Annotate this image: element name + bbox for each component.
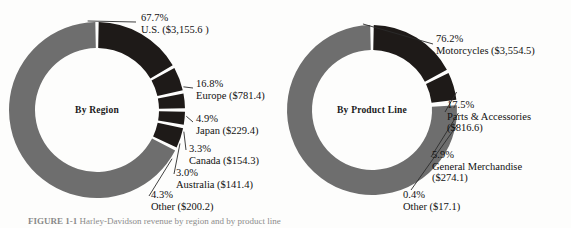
slice-label-japan: 4.9% Japan ($229.4)	[196, 113, 258, 136]
slice-pct-us: 67.7%	[141, 12, 209, 24]
donut-slice	[158, 94, 185, 109]
slice-label-other-product: 0.4% Other ($17.1)	[403, 189, 460, 212]
figure-caption-text: Harley-Davidson revenue by region and by…	[80, 216, 281, 226]
by-product-line-center-label: By Product Line	[337, 105, 407, 115]
slice-pct-other-region: 4.3%	[151, 189, 213, 201]
slice-name-japan: Japan ($229.4)	[196, 125, 258, 137]
slice-pct-parts-accessories: 17.5%	[447, 99, 531, 111]
slice-pct-europe: 16.8%	[196, 78, 265, 90]
donut-slice	[158, 111, 185, 125]
slice-name-canada: Canada ($154.3)	[189, 155, 259, 167]
slice-pct-australia: 3.0%	[176, 167, 253, 179]
slice-label-general-merchandise: 5.9% General Merchandise ($274.1)	[432, 149, 522, 184]
slice-label-motorcycles: 76.2% Motorcycles ($3,554.5)	[436, 33, 535, 56]
slice-label-australia: 3.0% Australia ($141.4)	[176, 167, 253, 190]
slice-name-europe: Europe ($781.4)	[196, 90, 265, 102]
slice-name-other-product: Other ($17.1)	[403, 201, 460, 213]
slice-name-general-merchandise: General Merchandise	[432, 161, 522, 173]
by-region-center-label: By Region	[75, 105, 119, 115]
slice-name-motorcycles: Motorcycles ($3,554.5)	[436, 45, 535, 57]
donut-chart-by-region: By Region 67.7% U.S. ($3,155.6 ) 16.8% E…	[0, 0, 290, 228]
slice-name-parts-accessories: Parts & Accessories	[447, 111, 531, 123]
slice-pct-canada: 3.3%	[189, 143, 259, 155]
slice-label-parts-accessories: 17.5% Parts & Accessories ($816.6)	[447, 99, 531, 134]
slice-pct-general-merchandise: 5.9%	[432, 149, 522, 161]
slice-label-canada: 3.3% Canada ($154.3)	[189, 143, 259, 166]
slice-name-us: U.S. ($3,155.6 )	[141, 24, 209, 36]
slice-label-europe: 16.8% Europe ($781.4)	[196, 78, 265, 101]
figure-container: By Region 67.7% U.S. ($3,155.6 ) 16.8% E…	[0, 0, 571, 228]
leader-line	[186, 116, 193, 122]
leader-line	[184, 132, 186, 150]
slice-amount-parts-accessories: ($816.6)	[447, 122, 531, 134]
slice-pct-other-product: 0.4%	[403, 189, 460, 201]
slice-amount-general-merchandise: ($274.1)	[432, 172, 522, 184]
figure-caption-number: FIGURE 1-1	[28, 216, 77, 226]
leader-line	[183, 87, 193, 88]
leader-line	[88, 21, 136, 22]
slice-pct-motorcycles: 76.2%	[436, 33, 535, 45]
donut-chart-by-product-line: By Product Line 76.2% Motorcycles ($3,55…	[281, 0, 571, 228]
slice-name-other-region: Other ($200.2)	[151, 201, 213, 213]
slice-label-us: 67.7% U.S. ($3,155.6 )	[141, 12, 209, 35]
figure-caption: FIGURE 1-1 Harley-Davidson revenue by re…	[28, 216, 281, 227]
slice-pct-japan: 4.9%	[196, 113, 258, 125]
slice-label-other-region: 4.3% Other ($200.2)	[151, 189, 213, 212]
